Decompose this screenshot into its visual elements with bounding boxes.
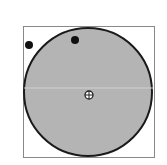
dot-on-edge [71,36,79,44]
crosshair-icon [85,91,93,99]
dot-outside [25,41,33,49]
circle-diagram [0,0,167,165]
